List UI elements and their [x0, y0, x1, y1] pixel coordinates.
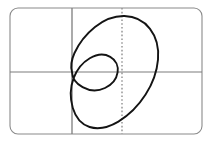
rounded-rectangle-border: [10, 8, 202, 134]
figure-container: [0, 0, 212, 142]
polar-curve-plot-svg: [0, 0, 212, 142]
